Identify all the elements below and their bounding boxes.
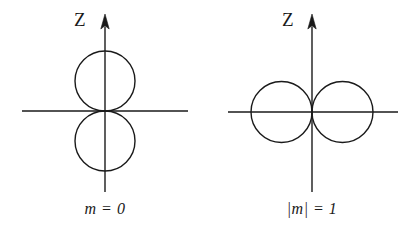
- left-axis-label-z: Z: [74, 10, 86, 29]
- figure-root: Z Z m = 0 |m| = 1: [0, 0, 420, 235]
- panel-left-m-equals-0: [22, 14, 188, 192]
- left-panel-caption: m = 0: [25, 201, 185, 217]
- panel-right-abs-m-equals-1: [228, 14, 398, 192]
- right-axis-label-z: Z: [282, 10, 294, 29]
- figure-canvas: [0, 0, 420, 235]
- right-panel-caption: |m| = 1: [232, 201, 392, 217]
